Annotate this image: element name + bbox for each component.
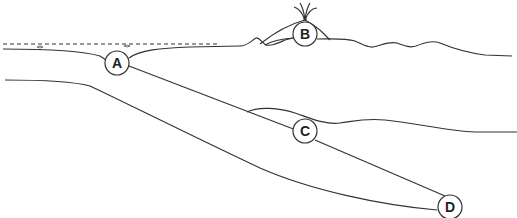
marker-c: C bbox=[293, 119, 317, 143]
svg-text:C: C bbox=[300, 123, 310, 139]
svg-text:A: A bbox=[112, 55, 122, 71]
overriding-surface-line bbox=[129, 38, 293, 58]
small-mark-icon bbox=[37, 46, 43, 48]
ocean-floor-line bbox=[3, 49, 106, 60]
small-mark-icon bbox=[124, 45, 130, 47]
crust-base-line bbox=[247, 108, 517, 132]
continental-surface-line bbox=[317, 39, 512, 56]
svg-text:B: B bbox=[300, 26, 310, 42]
slab-upper-surface-lower bbox=[315, 140, 445, 196]
slab-lower-surface bbox=[5, 80, 437, 210]
marker-a: A bbox=[105, 51, 129, 75]
svg-text:D: D bbox=[445, 199, 455, 215]
slab-upper-surface bbox=[129, 66, 296, 130]
marker-d: D bbox=[438, 195, 462, 218]
subduction-diagram: A B C D bbox=[0, 0, 517, 218]
eruption-icon bbox=[294, 3, 317, 21]
marker-b: B bbox=[293, 22, 317, 46]
